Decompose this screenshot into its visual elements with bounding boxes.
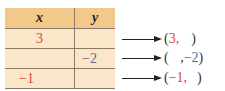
- ordered-pair: (3,): [164, 31, 196, 47]
- pair-x: −1,: [169, 70, 187, 85]
- table-row: −2: [5, 49, 115, 69]
- cell-x: −1: [5, 69, 75, 89]
- arrow-right-icon: [122, 78, 160, 79]
- table-header-row: x y: [5, 8, 115, 29]
- cell-y: −2: [75, 49, 116, 69]
- cell-y: [75, 69, 116, 89]
- arrow-right-icon: [122, 58, 160, 59]
- pair-x: 3,: [169, 31, 180, 46]
- header-y: y: [75, 8, 116, 29]
- open-paren: (: [164, 50, 169, 65]
- cell-x: [5, 49, 75, 69]
- ordered-pair: (−1,): [164, 70, 202, 86]
- table-row: −1: [5, 69, 115, 89]
- pair-comma: ,: [177, 50, 184, 65]
- cell-y: [75, 29, 116, 49]
- pair-y: −2: [184, 50, 199, 65]
- cell-x: 3: [5, 29, 75, 49]
- close-paren: ): [191, 31, 196, 46]
- close-paren: ): [197, 70, 202, 85]
- xy-table: x y 3 −2 −1: [5, 8, 115, 89]
- close-paren: ): [199, 50, 204, 65]
- table-row: 3: [5, 29, 115, 49]
- header-x: x: [5, 8, 75, 29]
- arrow-right-icon: [122, 39, 160, 40]
- ordered-pair: ( ,−2): [164, 50, 203, 66]
